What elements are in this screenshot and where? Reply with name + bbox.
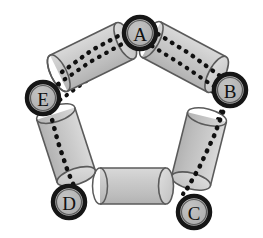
- node-B[interactable]: B: [214, 74, 246, 106]
- node-B-ring[interactable]: [214, 74, 246, 106]
- node-D-ring[interactable]: [53, 186, 85, 218]
- node-A[interactable]: A: [124, 17, 156, 49]
- node-A-ring[interactable]: [124, 17, 156, 49]
- node-E-ring[interactable]: [27, 82, 59, 114]
- node-C-ring[interactable]: [178, 196, 210, 228]
- diagram-canvas: A B C D E: [0, 0, 263, 238]
- cylinder-body: [100, 168, 166, 204]
- cylinder-cap-far: [159, 168, 174, 204]
- diagram-svg: A B C D E: [0, 0, 263, 238]
- cylinder-bottom-center: [93, 168, 174, 204]
- node-C[interactable]: C: [178, 196, 210, 228]
- node-D[interactable]: D: [53, 186, 85, 218]
- node-E[interactable]: E: [27, 82, 59, 114]
